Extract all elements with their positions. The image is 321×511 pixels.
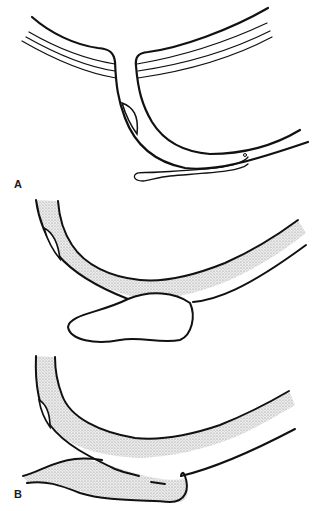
panel-label-a: A <box>14 178 22 190</box>
panel-b-bottom-drawing <box>23 356 295 502</box>
medical-diagram: A B <box>0 0 321 511</box>
panel-b-top-drawing <box>36 200 306 342</box>
panel-label-b: B <box>14 488 22 500</box>
panel-a-drawing <box>22 8 308 181</box>
